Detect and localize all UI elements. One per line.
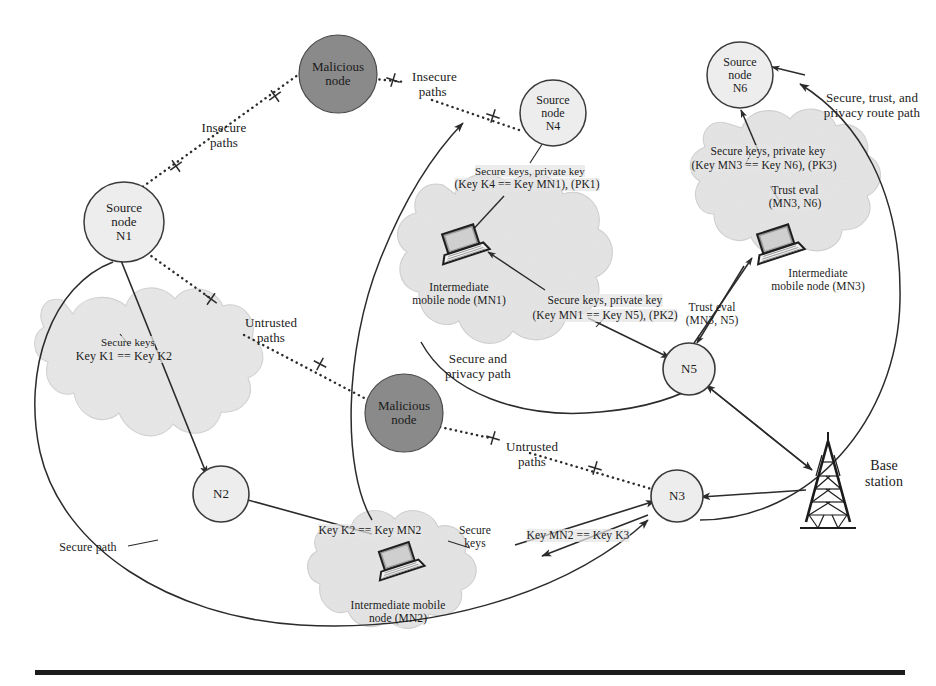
- leader-secure-path: [128, 540, 158, 546]
- node-n3: [651, 470, 703, 522]
- edge-mn1-n5: [588, 318, 670, 358]
- label-secure-trust-privacy-route: Secure, trust, andprivacy route path: [824, 91, 920, 120]
- label-mn1-keys-top: Secure keys, private key: [475, 165, 585, 177]
- label-mn2-secure-keys: Securekeys: [459, 524, 491, 550]
- network-diagram-figure: SourcenodeN1 N2 N3 SourcenodeN4 N5 Sourc…: [0, 0, 936, 686]
- leader-route-n6: [772, 67, 805, 75]
- label-mn3-keys: Secure keys, private key: [711, 145, 826, 158]
- edge-base-n5: [706, 385, 812, 470]
- label-key-k1-k2: Key K1 == Key K2: [76, 350, 172, 363]
- label-trust-eval-mn3-n5: Trust eval(MN3, N5): [686, 301, 739, 327]
- label-untrusted-paths-right: Untrustedpaths: [506, 440, 558, 469]
- label-mn3-device: Intermediatemobile node (MN3): [771, 267, 865, 293]
- label-mn1-keys-top-detail: (Key K4 == Key MN1), (PK1): [454, 178, 599, 191]
- label-secure-path: Secure path: [59, 541, 116, 554]
- bottom-rule-divider: [35, 670, 905, 675]
- label-mn1-keys-bottom-detail: (Key MN1 == Key N5), (PK2): [532, 309, 677, 322]
- node-n6: [707, 42, 773, 108]
- label-key-k2-mn2: Key K2 == Key MN2: [319, 524, 422, 537]
- label-untrusted-paths-left: Untrustedpaths: [245, 316, 297, 345]
- node-label-base-station: Basestation: [865, 458, 903, 489]
- node-n4: [520, 80, 586, 146]
- label-secure-privacy-path: Secure andprivacy path: [445, 352, 511, 381]
- label-trust-eval-mn3-n6: Trust eval(MN3, N6): [769, 184, 822, 210]
- label-mn1-keys-bottom: Secure keys, private key: [548, 294, 663, 307]
- node-malicious-mid: [365, 374, 443, 452]
- label-mn2-device: Intermediate mobilenode (MN2): [351, 599, 446, 625]
- node-n1: [84, 182, 164, 262]
- label-insecure-paths-right: Insecure paths: [412, 70, 457, 99]
- node-n2: [193, 466, 249, 522]
- node-n5: [663, 343, 715, 395]
- label-key-mn2-k3: Key MN2 == Key K3: [527, 529, 630, 542]
- label-mn3-keys-detail: (Key MN3 == Key N6), (PK3): [691, 159, 836, 172]
- label-mn1-device: Intermediatemobile node (MN1): [412, 281, 506, 307]
- node-malicious-top: [299, 35, 377, 113]
- label-secure-keys-n1n2: Secure keys: [101, 336, 155, 348]
- label-insecure-paths-left: Insecurepaths: [202, 121, 247, 150]
